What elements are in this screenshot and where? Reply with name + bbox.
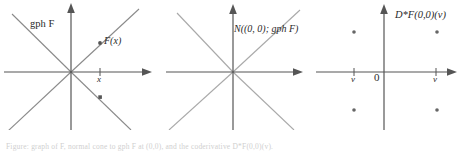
cone-line-down-right: [233, 72, 294, 130]
origin-label: 0: [374, 72, 380, 83]
figure-caption-strip: Figure: graph of F, normal cone to gph F…: [0, 130, 464, 152]
marker-F-of-x: [98, 41, 102, 45]
F-of-x-label: F(x): [104, 36, 121, 46]
y-axis-arrowhead: [229, 4, 237, 14]
marker-lower-left: [352, 108, 356, 112]
line-diagonal-down-left: [8, 72, 71, 130]
y-axis-arrowhead: [380, 4, 388, 14]
panel-gph-F-canvas: [0, 0, 155, 130]
cone-line-down-left: [169, 72, 233, 130]
gph-F-label: gph F: [30, 19, 54, 30]
cone-line-up-left: [177, 13, 233, 72]
v-label-left: v: [351, 75, 355, 84]
coderivative-label: D*F(0,0)(v): [395, 10, 446, 21]
marker-lower-right: [435, 108, 439, 112]
line-diagonal-down-right: [71, 72, 131, 130]
panel-gph-F: gph F F(x) x: [0, 0, 155, 130]
x-axis-arrowhead: [447, 68, 457, 76]
panel-coderivative: D*F(0,0)(v) v v 0: [310, 0, 464, 130]
figure-caption: Figure: graph of F, normal cone to gph F…: [6, 142, 273, 151]
figure-row: gph F F(x) x N((0, 0); gph F): [0, 0, 464, 130]
y-axis-arrowhead: [67, 3, 75, 13]
panel-normal-cone-canvas: [155, 0, 310, 130]
panel-normal-cone: N((0, 0); gph F): [155, 0, 310, 130]
x-axis-arrowhead: [293, 68, 303, 76]
v-label-right: v: [433, 75, 437, 84]
marker-lower-square: [98, 95, 102, 99]
marker-upper-left: [352, 30, 356, 34]
normal-cone-label: N((0, 0); gph F): [234, 24, 298, 34]
x-axis-arrowhead: [142, 68, 152, 76]
marker-upper-right: [435, 30, 439, 34]
x-tick-label: x: [97, 75, 101, 84]
cone-line-up-right: [233, 10, 300, 72]
